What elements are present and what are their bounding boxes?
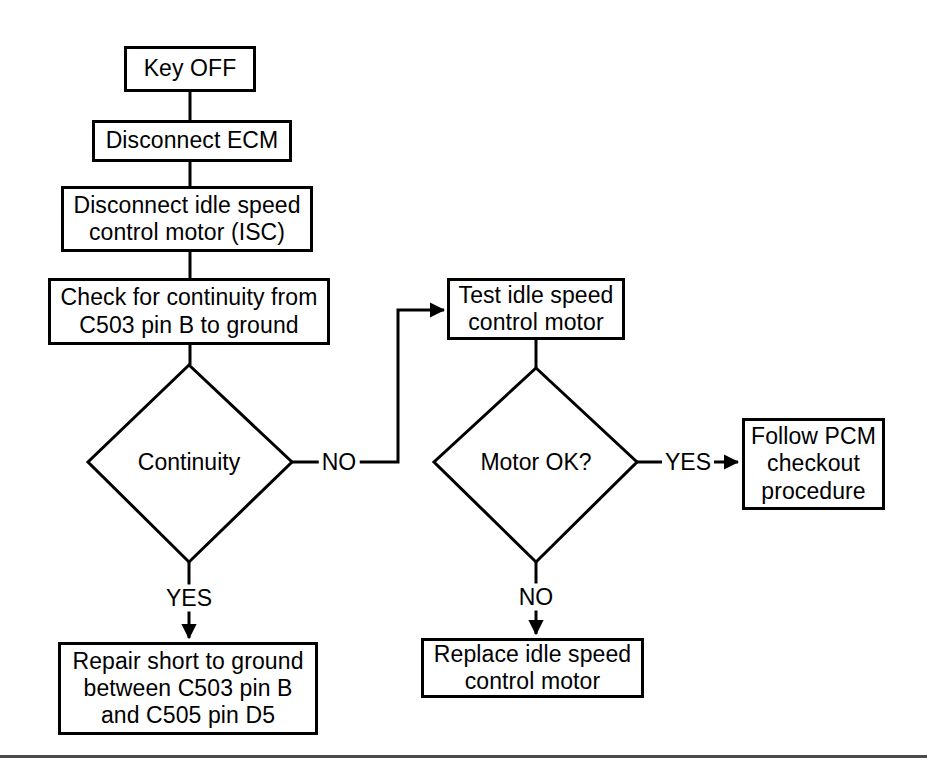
decision-label-continuity[interactable]: Continuity: [138, 449, 240, 476]
node-disconnect-isc[interactable]: Disconnect idle speed control motor (ISC…: [61, 186, 313, 252]
node-disconnect-ecm[interactable]: Disconnect ECM: [92, 120, 292, 162]
node-check-continuity[interactable]: Check for continuity from C503 pin B to …: [48, 278, 330, 345]
edge-label-continuity-yes: YES: [163, 585, 215, 612]
edge-label-motor-ok-yes: YES: [662, 449, 714, 476]
footer-divider: [0, 755, 927, 758]
node-follow-pcm[interactable]: Follow PCM checkout procedure: [742, 418, 885, 510]
node-replace-isc[interactable]: Replace idle speed control motor: [421, 638, 644, 698]
flowchart-canvas: Key OFF Disconnect ECM Disconnect idle s…: [0, 0, 927, 773]
decision-label-motor-ok[interactable]: Motor OK?: [480, 449, 591, 476]
node-key-off[interactable]: Key OFF: [124, 46, 256, 92]
node-repair-short[interactable]: Repair short to ground between C503 pin …: [58, 642, 318, 735]
edge-label-continuity-no: NO: [319, 449, 360, 476]
node-test-isc[interactable]: Test idle speed control motor: [447, 278, 625, 340]
edge-label-motor-ok-no: NO: [516, 584, 557, 611]
